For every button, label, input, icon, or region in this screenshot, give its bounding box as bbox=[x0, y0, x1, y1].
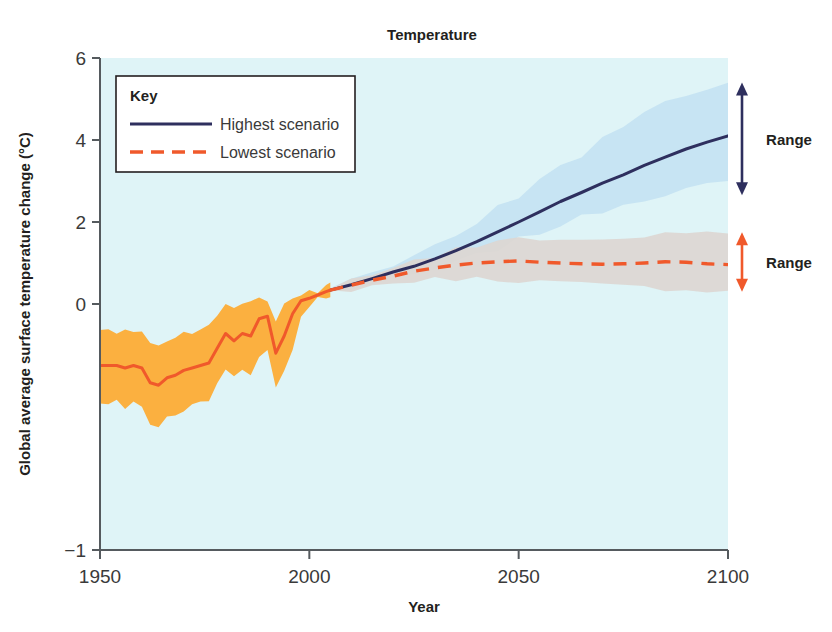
range-arrowhead-up-lowest bbox=[736, 232, 748, 245]
chart-figure: 6420−1 1950200020502100 Temperature Year… bbox=[0, 0, 832, 632]
legend-title: Key bbox=[130, 87, 158, 104]
range-arrowhead-down-lowest bbox=[736, 279, 748, 292]
x-tick-label: 2050 bbox=[498, 566, 540, 587]
range-annotation-highest: Range bbox=[736, 83, 812, 196]
y-axis-tick-labels: 6420−1 bbox=[64, 48, 86, 561]
range-arrowhead-down-highest bbox=[736, 182, 748, 195]
y-tick-label: 6 bbox=[75, 48, 86, 69]
range-annotation-lowest: Range bbox=[736, 232, 812, 291]
range-label-highest: Range bbox=[766, 131, 812, 148]
x-axis-tick-labels: 1950200020502100 bbox=[79, 566, 749, 587]
y-tick-label: 2 bbox=[75, 212, 86, 233]
y-axis-title: Global average surface temperature chang… bbox=[16, 132, 33, 476]
temperature-chart-svg: 6420−1 1950200020502100 Temperature Year… bbox=[0, 0, 832, 632]
range-label-lowest: Range bbox=[766, 254, 812, 271]
range-arrowhead-up-highest bbox=[736, 83, 748, 96]
x-tick-label: 2000 bbox=[288, 566, 330, 587]
chart-title: Temperature bbox=[387, 26, 477, 43]
x-tick-label: 1950 bbox=[79, 566, 121, 587]
legend-label-highest-scenario: Highest scenario bbox=[220, 116, 339, 133]
x-axis-title: Year bbox=[408, 598, 440, 615]
x-tick-label: 2100 bbox=[707, 566, 749, 587]
legend[interactable]: Key Highest scenario Lowest scenario bbox=[116, 76, 355, 172]
legend-label-lowest-scenario: Lowest scenario bbox=[220, 144, 336, 161]
y-tick-label: 0 bbox=[75, 294, 86, 315]
y-tick-label: −1 bbox=[64, 540, 86, 561]
y-tick-label: 4 bbox=[75, 130, 86, 151]
